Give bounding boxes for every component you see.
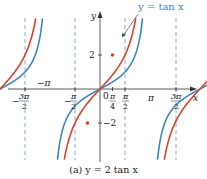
x-tick-pi2: π 2: [122, 92, 129, 111]
svg-text:4: 4: [110, 102, 115, 111]
svg-text:2: 2: [71, 102, 76, 111]
y-axis-label: y: [90, 11, 97, 21]
svg-text:π: π: [122, 92, 129, 101]
figure-caption: (a) y = 2 tan x: [0, 164, 207, 175]
x-tick-neg-pi: −π: [37, 78, 52, 88]
svg-text:π: π: [70, 92, 77, 101]
tan-graph: y = tan x y x 2 −2 0 −π π − 3π 2 − π 2 π…: [0, 0, 207, 179]
svg-text:2: 2: [22, 102, 27, 111]
svg-text:3π: 3π: [19, 92, 30, 101]
x-axis-label: x: [193, 93, 198, 103]
x-tick-0: 0: [103, 91, 109, 101]
svg-text:2: 2: [174, 102, 179, 111]
y-axis-arrow-icon: [98, 11, 103, 18]
svg-text:π: π: [109, 92, 116, 101]
x-tick-neg-3pi2: − 3π 2: [12, 92, 30, 111]
point-pi4-2: [111, 53, 115, 57]
x-tick-neg-pi2: − π 2: [64, 92, 77, 111]
tan-label: y = tan x: [137, 1, 184, 12]
x-tick-pi: π: [147, 93, 155, 103]
y-tick-neg2: −2: [103, 118, 116, 128]
svg-text:2: 2: [123, 102, 128, 111]
y-tick-2: 2: [89, 50, 95, 60]
x-tick-pi4: π 4: [109, 92, 116, 111]
point-negpi4-neg2: [86, 121, 90, 125]
svg-text:3π: 3π: [171, 92, 182, 101]
